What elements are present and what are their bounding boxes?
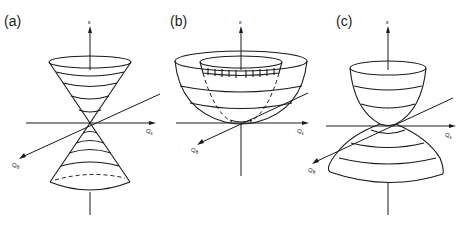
energy-axis-arrow-icon — [239, 26, 243, 33]
q-theta-arrow-icon — [197, 139, 204, 145]
panel-b-label: (b) — [170, 13, 187, 29]
band-structure-figure: (a) ε Qε Qθ — [0, 0, 470, 227]
q-epsilon-arrow-icon — [302, 121, 309, 125]
q-theta-label: Qθ — [191, 147, 199, 155]
q-epsilon-label: Qε — [445, 132, 452, 140]
q-theta-label: Qθ — [308, 167, 316, 175]
q-epsilon-arrow-icon — [149, 121, 156, 125]
energy-axis-arrow-icon — [88, 26, 92, 33]
energy-axis-label: ε — [386, 19, 389, 25]
q-epsilon-label: Qε — [146, 128, 153, 136]
panel-a-label: (a) — [4, 13, 21, 29]
q-theta-label: Qθ — [12, 162, 20, 170]
energy-axis-arrow-icon — [386, 26, 390, 33]
panel-b: (b) ε Qε Qθ — [170, 13, 309, 176]
energy-axis-label: ε — [239, 19, 242, 25]
q-theta-arrow-icon — [19, 153, 26, 159]
q-theta-arrow-icon — [312, 158, 319, 164]
q-epsilon-arrow-icon — [449, 124, 456, 128]
lower-cone — [50, 123, 130, 190]
q-theta-axis — [22, 94, 160, 157]
panel-c: (c) ε Qε Qθ — [308, 13, 456, 215]
panel-c-label: (c) — [336, 13, 352, 29]
energy-axis-label: ε — [88, 19, 91, 25]
panel-a: (a) ε Qε Qθ — [4, 13, 160, 215]
q-epsilon-label: Qε — [297, 128, 304, 136]
lower-paraboloid — [328, 124, 443, 183]
